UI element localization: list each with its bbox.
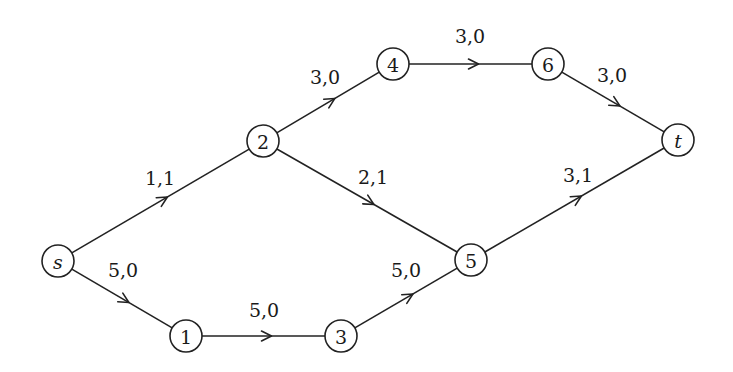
edge-4-6: [409, 59, 532, 69]
node-label: 1: [180, 326, 192, 348]
edge-label: 1,1: [145, 167, 175, 189]
node-label: 3: [335, 326, 347, 348]
node-label: 6: [542, 54, 554, 76]
node-label: s: [53, 251, 63, 273]
edge-line: [72, 149, 249, 253]
node-4: 4: [377, 48, 409, 80]
node-label: 5: [465, 250, 477, 272]
edge-label: 3,0: [455, 25, 485, 47]
nodes-layer: s135246t: [42, 48, 694, 352]
edge-label: 2,1: [358, 166, 388, 188]
node-5: 5: [455, 244, 487, 276]
edge-label: 3,0: [310, 66, 340, 88]
flow-network-diagram: s135246t 1,15,05,05,03,02,13,03,03,1: [0, 0, 733, 372]
edges-layer: [72, 59, 664, 341]
node-6: 6: [532, 48, 564, 80]
node-label: 4: [387, 54, 399, 76]
graph-svg: s135246t 1,15,05,05,03,02,13,03,03,1: [0, 0, 733, 372]
edge-label: 3,0: [597, 64, 627, 86]
edge-label: 5,0: [391, 259, 421, 281]
node-t: t: [662, 124, 694, 156]
node-3: 3: [325, 320, 357, 352]
node-1: 1: [170, 320, 202, 352]
edge-label: 5,0: [108, 259, 138, 281]
node-label: 2: [257, 131, 269, 153]
edge-1-3: [202, 331, 325, 341]
edge-s-2: [72, 149, 249, 253]
node-s: s: [42, 245, 74, 277]
edge-2-5: [277, 149, 457, 252]
edge-line: [277, 149, 457, 252]
edge-label: 5,0: [249, 299, 279, 321]
edge-label: 3,1: [563, 164, 593, 186]
node-2: 2: [247, 125, 279, 157]
node-label: t: [674, 130, 682, 152]
